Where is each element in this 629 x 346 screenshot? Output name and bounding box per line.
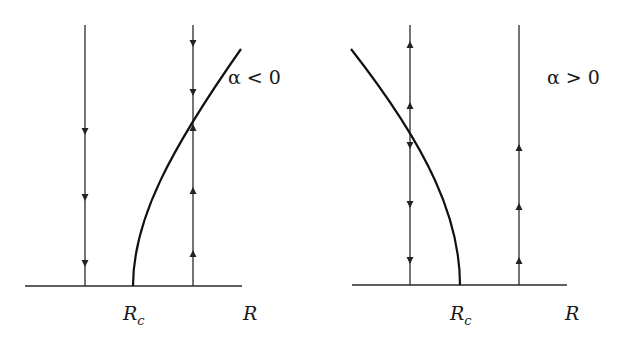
condition-label-alpha-positive: α > 0 bbox=[547, 66, 600, 88]
rc-subscript: c bbox=[137, 313, 145, 328]
axis-label-R-left: R bbox=[242, 302, 257, 324]
rc-subscript: c bbox=[464, 313, 472, 328]
critical-radius-label-right: Rc bbox=[449, 302, 472, 328]
condition-label-alpha-negative: α < 0 bbox=[228, 66, 281, 88]
phase-diagram-figure: α < 0 α > 0 Rc R Rc R bbox=[0, 0, 629, 346]
rc-main: R bbox=[122, 302, 137, 324]
critical-radius-label-left: Rc bbox=[122, 302, 145, 328]
axis-label-R-right: R bbox=[564, 302, 579, 324]
rc-main: R bbox=[449, 302, 464, 324]
